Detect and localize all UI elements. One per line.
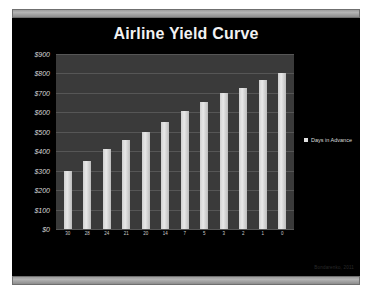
x-axis-label: 0 <box>278 231 286 237</box>
bar[interactable] <box>220 93 228 229</box>
x-axis-label: 1 <box>259 231 267 237</box>
horizontal-scrollbar-bottom[interactable] <box>12 276 360 285</box>
bar[interactable] <box>103 149 111 229</box>
bar[interactable] <box>142 132 150 229</box>
bar[interactable] <box>161 122 169 229</box>
chart-title: Airline Yield Curve <box>12 25 360 43</box>
horizontal-scrollbar-top[interactable] <box>12 9 360 18</box>
y-axis-label: $700 <box>34 89 50 96</box>
y-axis-label: $0 <box>42 226 50 233</box>
y-axis-label: $600 <box>34 109 50 116</box>
bar[interactable] <box>278 73 286 229</box>
y-axis-label: $900 <box>34 51 50 58</box>
bar[interactable] <box>259 80 267 229</box>
bar[interactable] <box>200 102 208 229</box>
bar[interactable] <box>239 88 247 229</box>
legend-label: Days in Advance <box>311 137 352 143</box>
chart-window: Airline Yield Curve $900$800$700$600$500… <box>0 0 372 293</box>
chart-legend: Days in Advance <box>304 137 352 143</box>
window-frame: Airline Yield Curve $900$800$700$600$500… <box>12 9 360 285</box>
bar[interactable] <box>64 171 72 229</box>
x-axis-label: 21 <box>122 231 130 237</box>
x-axis-label: 5 <box>200 231 208 237</box>
x-axis-label: 30 <box>64 231 72 237</box>
watermark: Bondarenko, 2011 <box>314 265 354 270</box>
y-axis-label: $800 <box>34 70 50 77</box>
x-axis-label: 28 <box>83 231 91 237</box>
x-axis-label: 7 <box>181 231 189 237</box>
x-axis-label: 20 <box>142 231 150 237</box>
x-axis: 302824212014753210 <box>56 231 294 243</box>
bars-layer <box>56 54 294 229</box>
x-axis-label: 24 <box>103 231 111 237</box>
x-axis-label: 2 <box>239 231 247 237</box>
gridline <box>56 229 294 230</box>
y-axis-label: $400 <box>34 148 50 155</box>
bar[interactable] <box>122 140 130 229</box>
bar[interactable] <box>181 111 189 229</box>
plot-area <box>56 54 294 229</box>
chart-canvas: Airline Yield Curve $900$800$700$600$500… <box>12 18 360 276</box>
x-axis-label: 3 <box>220 231 228 237</box>
y-axis-label: $100 <box>34 206 50 213</box>
y-axis: $900$800$700$600$500$400$300$200$100$0 <box>12 54 52 229</box>
bar[interactable] <box>83 161 91 229</box>
y-axis-label: $200 <box>34 187 50 194</box>
y-axis-label: $300 <box>34 167 50 174</box>
x-axis-label: 14 <box>161 231 169 237</box>
y-axis-label: $500 <box>34 128 50 135</box>
legend-swatch-icon <box>304 138 308 142</box>
